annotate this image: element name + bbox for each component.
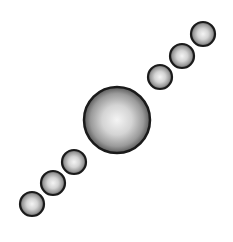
- small-sphere-upper-1-icon: [148, 65, 172, 89]
- small-sphere-upper-3-icon: [191, 22, 215, 46]
- sphere-diagonal-illustration: [0, 0, 233, 242]
- small-sphere-upper-2-icon: [170, 44, 194, 68]
- small-sphere-lower-2-icon: [41, 171, 65, 195]
- large-sphere-center-icon: [84, 87, 150, 153]
- sphere-group: [20, 22, 215, 216]
- small-sphere-lower-3-icon: [62, 150, 86, 174]
- small-sphere-lower-1-icon: [20, 192, 44, 216]
